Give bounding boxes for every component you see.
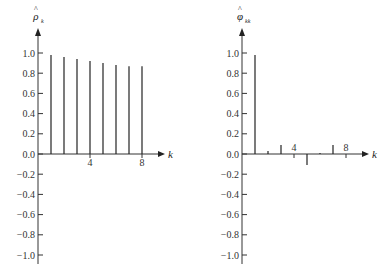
y-tick-label: −0.6	[221, 209, 239, 220]
x-axis-label: k	[168, 148, 174, 160]
y-axis-arrow-icon	[35, 28, 41, 36]
y-tick-label: 0.6	[227, 88, 240, 99]
y-tick-label: −0.4	[221, 189, 239, 200]
hat-accent: ^	[34, 5, 38, 14]
y-tick-label: 0.8	[227, 68, 240, 79]
y-tick-label: −0.8	[17, 229, 35, 240]
y-tick-label: 0.0	[23, 149, 36, 160]
y-tick-label: 1.0	[23, 48, 36, 59]
y-axis-label-subscript: k	[41, 18, 44, 24]
hat-accent: ^	[238, 5, 242, 14]
y-tick-label: 0.2	[23, 128, 36, 139]
y-tick-label: −1.0	[17, 250, 35, 261]
y-tick-label: −1.0	[221, 250, 239, 261]
y-tick-label: −0.6	[17, 209, 35, 220]
y-tick-label: 0.2	[227, 128, 240, 139]
pacf-panel: k1.00.80.60.40.20.0−0.2−0.4−0.6−0.8−1.04…	[221, 5, 378, 264]
x-axis-arrow-icon	[158, 151, 165, 157]
y-tick-label: 0.4	[227, 108, 240, 119]
x-tick-label: 4	[88, 157, 93, 168]
y-tick-label: 1.0	[227, 48, 240, 59]
acf-pacf-figure: k1.00.80.60.40.20.0−0.2−0.4−0.6−0.8−1.04…	[0, 0, 384, 274]
y-tick-label: 0.0	[227, 149, 240, 160]
acf-panel: k1.00.80.60.40.20.0−0.2−0.4−0.6−0.8−1.04…	[17, 5, 174, 264]
y-axis-label-subscript: kk	[245, 18, 251, 24]
x-axis-arrow-icon	[362, 151, 369, 157]
y-tick-label: −0.8	[221, 229, 239, 240]
y-tick-label: 0.4	[23, 108, 36, 119]
y-axis-arrow-icon	[239, 28, 245, 36]
y-tick-label: −0.2	[17, 169, 35, 180]
x-axis-label: k	[372, 148, 378, 160]
y-tick-label: −0.4	[17, 189, 35, 200]
x-tick-label: 8	[140, 157, 145, 168]
y-tick-label: −0.2	[221, 169, 239, 180]
y-tick-label: 0.6	[23, 88, 36, 99]
x-tick-label: 8	[344, 142, 349, 153]
y-tick-label: 0.8	[23, 68, 36, 79]
x-tick-label: 4	[292, 142, 297, 153]
